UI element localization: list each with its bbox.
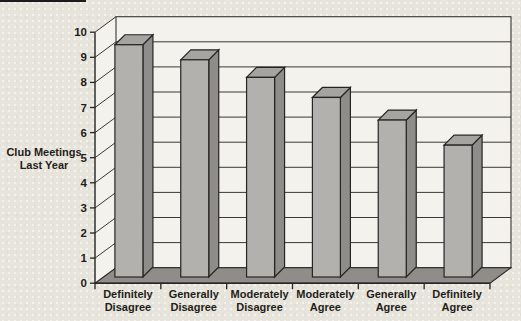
x-category-label-generally-disagree: GenerallyDisagree (169, 288, 220, 313)
y-tick-label-7: 7 (81, 102, 87, 114)
bar-definitely-agree (444, 145, 472, 277)
y-axis-title-line2: Last Year (4, 159, 84, 172)
bar-generally-disagree (181, 60, 209, 277)
y-tick-label-2: 2 (81, 227, 87, 239)
bar-side-moderately-agree (340, 87, 350, 277)
y-axis-title: Club Meetings Last Year (4, 146, 84, 172)
bar-side-definitely-agree (472, 135, 482, 277)
y-tick-label-1: 1 (81, 252, 88, 264)
x-category-label-moderately-agree: ModeratelyAgree (296, 288, 355, 313)
bar-side-generally-disagree (209, 50, 219, 277)
x-category-label-definitely-agree: DefinitelyAgree (432, 288, 482, 313)
y-axis-title-line1: Club Meetings (4, 146, 84, 159)
scanned-chart-page: 012345678910DefinitelyDisagreeGenerallyD… (0, 0, 521, 321)
bar-generally-agree (378, 120, 406, 277)
bar-moderately-disagree (247, 77, 275, 277)
bar-definitely-disagree (115, 45, 143, 277)
y-tick-label-10: 10 (74, 26, 87, 38)
bar-side-generally-agree (406, 110, 416, 277)
y-tick-label-3: 3 (81, 202, 87, 214)
y-tick-label-8: 8 (81, 76, 88, 88)
y-tick-label-6: 6 (81, 127, 87, 139)
y-tick-label-4: 4 (81, 177, 88, 189)
bar-side-moderately-disagree (275, 67, 285, 277)
y-tick-label-9: 9 (81, 51, 87, 63)
x-category-label-moderately-disagree: ModeratelyDisagree (231, 288, 290, 313)
x-category-label-definitely-disagree: DefinitelyDisagree (103, 288, 153, 313)
bar-moderately-agree (312, 97, 340, 277)
bar-side-definitely-disagree (143, 35, 153, 277)
y-tick-label-0: 0 (81, 277, 87, 289)
x-category-label-generally-agree: GenerallyAgree (366, 288, 417, 313)
